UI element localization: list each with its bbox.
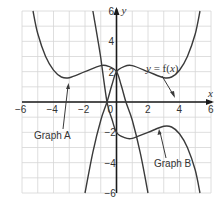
y-tick-label: −4 <box>105 158 117 169</box>
f-label: y = f(x) <box>145 62 179 75</box>
graph-b-label: Graph B <box>154 158 192 169</box>
x-tick-label: 4 <box>177 104 183 115</box>
f-arrow-icon <box>170 91 175 98</box>
x-axis-label: x <box>207 87 213 99</box>
y-tick-label: 6 <box>109 6 115 17</box>
x-tick-label: 2 <box>145 104 151 115</box>
x-tick-label: −2 <box>78 104 90 115</box>
x-tick-label: 6 <box>208 104 214 115</box>
y-tick-label: −2 <box>105 127 117 138</box>
x-tick-label: −4 <box>47 104 59 115</box>
y-tick-label: −6 <box>105 188 117 199</box>
x-tick-label: −6 <box>15 104 27 115</box>
y-tick-label: 2 <box>109 67 115 78</box>
graph-a-leader-line <box>63 86 68 129</box>
graph-b-leader-line <box>160 132 166 158</box>
y-tick-label: 4 <box>109 36 115 47</box>
y-axis-label: y <box>121 4 127 16</box>
function-graph-chart: yx −6−4−20246−6−4−2246 y = f(x)Graph AGr… <box>0 0 222 206</box>
graph-a-label: Graph A <box>34 130 71 141</box>
x-tick-label: 0 <box>108 104 114 115</box>
